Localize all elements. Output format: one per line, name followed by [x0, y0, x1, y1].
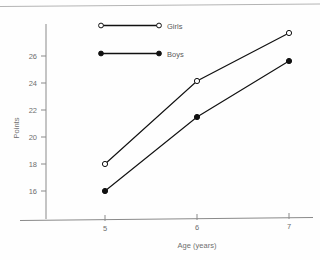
data-point-boys-age6 — [194, 114, 199, 119]
x-axis: 5 6 7 Age (years) — [20, 213, 313, 250]
y-tick-label-16: 16 — [29, 187, 37, 196]
legend-marker-boys-end — [157, 51, 162, 56]
legend-entry-boys: Boys — [99, 50, 184, 59]
series-girls — [102, 30, 291, 166]
x-axis-title: Age (years) — [178, 241, 217, 250]
data-point-boys-age5 — [102, 188, 107, 193]
legend-marker-girls-start — [99, 23, 104, 28]
y-tick-label-26: 26 — [29, 52, 37, 61]
data-point-girls-age7 — [286, 30, 291, 35]
legend-entry-girls: Girls — [99, 22, 183, 31]
x-tick-label-5: 5 — [103, 224, 107, 233]
y-axis-title: Points — [12, 117, 21, 138]
series-girls-line — [105, 33, 289, 164]
y-tick-label-18: 18 — [29, 160, 37, 169]
legend-marker-boys-start — [99, 51, 104, 56]
legend-marker-girls-end — [157, 23, 162, 28]
legend-label-boys: Boys — [167, 50, 184, 59]
x-axis-line — [20, 218, 313, 221]
x-tick-label-6: 6 — [195, 223, 199, 232]
y-tick-label-22: 22 — [29, 106, 37, 115]
y-axis: 26 24 22 20 18 16 Points — [12, 24, 46, 219]
chart-legend: Girls Boys — [99, 22, 184, 59]
x-tick-label-7: 7 — [287, 222, 291, 231]
line-chart-figure: 26 24 22 20 18 16 Points 5 6 7 Age (year… — [0, 0, 320, 260]
page-rule-top — [0, 4, 320, 7]
data-point-boys-age7 — [286, 58, 291, 63]
data-point-girls-age5 — [102, 161, 107, 166]
y-tick-label-20: 20 — [29, 133, 37, 142]
data-point-girls-age6 — [194, 78, 199, 83]
legend-label-girls: Girls — [167, 22, 183, 31]
y-tick-label-24: 24 — [29, 79, 37, 88]
